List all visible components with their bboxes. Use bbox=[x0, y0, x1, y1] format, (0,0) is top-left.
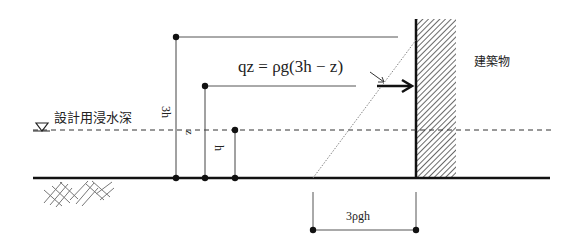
label-h: h bbox=[212, 145, 226, 151]
dimension-h: h bbox=[212, 127, 238, 181]
dimension-3h: 3h bbox=[159, 34, 398, 181]
leader-arrow-icon bbox=[370, 72, 384, 82]
dimension-z: z bbox=[184, 83, 356, 181]
ground-hatch-icon bbox=[44, 181, 114, 207]
building-label: 建築物 bbox=[474, 54, 510, 69]
building-wall bbox=[416, 19, 456, 178]
dimension-3pgh: 3ρgh bbox=[310, 192, 419, 233]
water-level-label: 設計用浸水深 bbox=[54, 110, 132, 125]
label-3pgh: 3ρgh bbox=[346, 209, 370, 223]
tsunami-pressure-diagram: 設計用浸水深 3h bbox=[0, 0, 575, 248]
label-z: z bbox=[184, 130, 196, 135]
label-3h: 3h bbox=[159, 106, 173, 118]
formula-label: qz = ρg(3h − z) bbox=[238, 57, 343, 76]
